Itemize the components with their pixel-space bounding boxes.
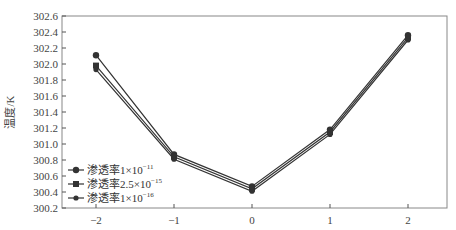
y-tick-label: 301.8 <box>33 74 58 86</box>
y-tick-label: 300.4 <box>33 186 58 198</box>
x-tick-label: 2 <box>405 214 411 226</box>
y-tick-label: 300.8 <box>33 154 58 166</box>
data-point <box>93 52 99 58</box>
data-point <box>327 132 332 137</box>
y-tick-label: 301.6 <box>33 90 58 102</box>
legend-label: 渗透率1×10−16 <box>87 191 154 204</box>
y-tick-label: 302.0 <box>33 58 58 70</box>
y-tick-label: 302.6 <box>33 10 58 22</box>
y-tick-label: 301.4 <box>33 106 58 118</box>
chart-container: 300.2300.4300.6300.8301.0301.2301.4301.6… <box>0 0 456 230</box>
data-point <box>405 37 410 42</box>
y-tick-label: 301.2 <box>33 122 58 134</box>
y-tick-label: 300.6 <box>33 170 58 182</box>
legend-marker <box>73 195 78 200</box>
y-axis-label: 温度/K <box>3 95 16 128</box>
x-tick-label: −1 <box>168 214 180 226</box>
y-tick-label: 301.0 <box>33 138 58 150</box>
y-tick-label: 300.2 <box>33 202 58 214</box>
x-tick-label: 1 <box>327 214 333 226</box>
data-point <box>249 189 254 194</box>
data-point <box>93 67 98 72</box>
y-tick-label: 302.4 <box>33 26 58 38</box>
legend-label: 渗透率1×10−11 <box>87 163 154 176</box>
legend-label: 渗透率2.5×10−15 <box>87 177 162 190</box>
legend-marker <box>73 181 79 187</box>
y-tick-label: 302.2 <box>33 42 58 54</box>
x-tick-label: 0 <box>249 214 255 226</box>
legend-marker <box>73 167 79 173</box>
x-tick-label: −2 <box>90 214 102 226</box>
data-point <box>171 157 176 162</box>
line-chart: 300.2300.4300.6300.8301.0301.2301.4301.6… <box>0 0 456 230</box>
